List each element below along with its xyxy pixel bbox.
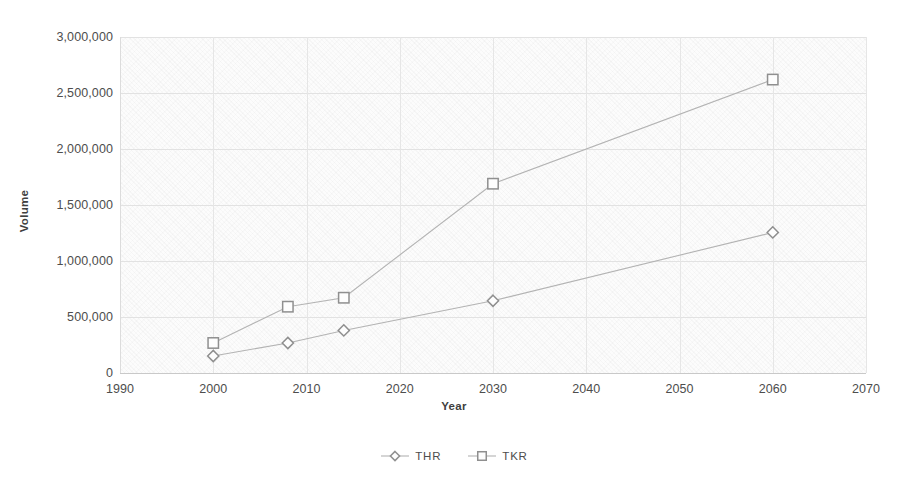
x-axis-tick-label: 2070 [852,382,880,396]
legend-marker-diamond-icon [380,449,410,463]
data-point-marker-diamond [487,295,498,306]
data-point-marker-square [339,293,349,303]
x-axis-title: Year [0,400,908,412]
chart-legend: THRTKR [0,449,908,463]
x-axis-tick-label: 2010 [292,382,320,396]
legend-marker-square-icon [467,449,497,463]
x-axis-tick-label: 2060 [759,382,787,396]
data-point-marker-diamond [208,350,219,361]
y-axis-tick-label: 2,000,000 [56,142,113,156]
gridline-vertical [866,37,867,373]
data-point-marker-diamond [338,325,349,336]
y-axis-tick-label: 1,500,000 [56,198,113,212]
y-axis-tick-label: 500,000 [67,310,113,324]
y-axis-tick-label: 3,000,000 [56,30,113,44]
line-chart: 0500,0001,000,0001,500,0002,000,0002,500… [0,0,908,483]
x-axis-tick-label: 2050 [665,382,693,396]
legend-label: TKR [502,450,527,462]
x-axis-tick-label: 2040 [572,382,600,396]
x-axis-tick-label: 2020 [386,382,414,396]
y-axis-tick-label: 0 [106,366,113,380]
legend-label: THR [415,450,441,462]
x-axis-line [120,373,866,374]
legend-item-thr[interactable]: THR [380,449,441,463]
data-point-marker-square [208,338,218,348]
y-axis-tick-label: 2,500,000 [56,86,113,100]
data-point-marker-square [478,452,487,461]
series-layer [120,37,866,373]
y-axis-tick-label: 1,000,000 [56,254,113,268]
data-point-marker-diamond [767,227,778,238]
y-axis-title: Volume [18,190,30,232]
x-axis-tick-label: 1990 [106,382,134,396]
data-point-marker-diamond [282,337,293,348]
data-point-marker-square [283,301,293,311]
legend-item-tkr[interactable]: TKR [467,449,527,463]
data-point-marker-square [488,179,498,189]
x-axis-tick-label: 2000 [199,382,227,396]
data-point-marker-diamond [391,451,400,460]
x-axis-tick-label: 2030 [479,382,507,396]
data-point-marker-square [768,74,778,84]
series-thr [208,227,779,362]
